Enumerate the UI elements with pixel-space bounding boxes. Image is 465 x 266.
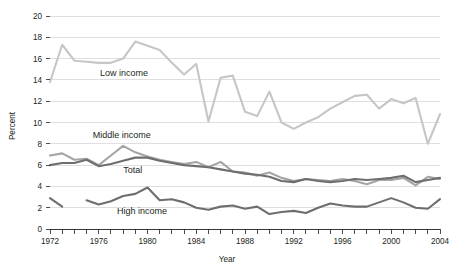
y-tick-label: 8 <box>37 140 42 149</box>
y-tick-label: 18 <box>33 33 43 42</box>
series-label-low-income: Low income <box>100 68 148 78</box>
x-tick-label: 2000 <box>382 237 401 246</box>
series-line-low-income <box>50 42 440 144</box>
series-label-total: Total <box>123 165 142 175</box>
y-tick-label: 2 <box>37 204 42 213</box>
tickmarks-group <box>50 229 440 234</box>
y-tick-label: 0 <box>37 225 42 234</box>
x-tick-labels-group: 197219761980198419881992199620002004 <box>41 237 450 246</box>
y-tick-labels-group: 02468101214161820 <box>33 12 50 234</box>
y-tick-label: 14 <box>33 76 43 85</box>
y-tick-label: 10 <box>33 119 43 128</box>
series-labels-group: Low incomeMiddle incomeTotalHigh income <box>93 68 167 215</box>
y-tick-label: 4 <box>37 182 42 191</box>
x-tick-label: 1976 <box>90 237 109 246</box>
x-tick-label: 2004 <box>431 237 450 246</box>
x-tick-label: 1972 <box>41 237 60 246</box>
x-tick-label: 1980 <box>138 237 157 246</box>
x-tick-label: 1984 <box>187 237 206 246</box>
series-label-high-income: High income <box>117 206 167 216</box>
y-tick-label: 20 <box>33 12 43 21</box>
chart-container: 02468101214161820 1972197619801984198819… <box>0 0 465 266</box>
x-tick-label: 1988 <box>236 237 255 246</box>
line-chart: 02468101214161820 1972197619801984198819… <box>0 0 465 266</box>
y-axis-title: Percent <box>8 111 17 140</box>
x-tick-label: 1992 <box>285 237 304 246</box>
y-tick-label: 12 <box>33 97 43 106</box>
series-label-middle-income: Middle income <box>93 130 151 140</box>
x-tick-label: 1996 <box>333 237 352 246</box>
y-tick-label: 6 <box>37 161 42 170</box>
y-tick-label: 16 <box>33 55 43 64</box>
series-line-total <box>50 158 440 183</box>
x-axis-title: Year <box>219 255 236 264</box>
series-line-high-income <box>50 198 62 207</box>
